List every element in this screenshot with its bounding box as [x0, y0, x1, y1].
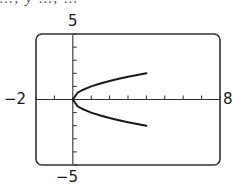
- y-min-label: −5: [56, 170, 78, 185]
- lower-branch-curve: [73, 100, 147, 126]
- x-min-label: −2: [4, 92, 26, 107]
- graph-canvas: [0, 0, 233, 194]
- y-max-label: 5: [68, 14, 78, 29]
- x-max-label: 8: [223, 92, 233, 107]
